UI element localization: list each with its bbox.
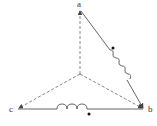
node-label-c: c — [9, 105, 13, 114]
phasor-diagram — [0, 0, 157, 126]
node-label-a: a — [77, 0, 81, 9]
edge-a-b — [81, 11, 143, 108]
inductor-icon — [110, 50, 131, 79]
node-label-b: b — [148, 105, 153, 114]
edge-c-b — [18, 104, 143, 109]
dashed-center-lines — [19, 11, 142, 108]
polarity-dot-icon — [112, 47, 115, 50]
polarity-dot-icon — [88, 113, 91, 116]
inductor-icon — [57, 104, 87, 109]
